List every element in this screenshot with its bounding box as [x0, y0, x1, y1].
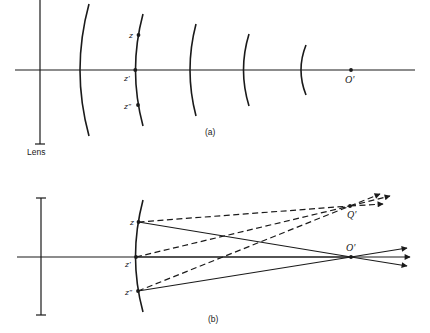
label-z-double-prime-b: z"	[124, 288, 133, 297]
label-z-double-prime-a: z"	[123, 102, 132, 111]
point-z-double-prime-b	[136, 289, 140, 293]
lens-label: Lens	[27, 147, 45, 157]
label-z-a: z	[128, 31, 133, 40]
caption-a: (a)	[205, 127, 216, 137]
label-o-prime-b: O'	[346, 242, 356, 253]
point-z-b	[137, 220, 141, 224]
point-z-a	[137, 33, 141, 37]
dashed-ray-z-to-q	[139, 206, 351, 222]
point-q-prime	[348, 204, 352, 208]
point-o-prime-a	[349, 68, 353, 72]
ray-o-out-down	[351, 257, 407, 266]
optics-diagram: z z' z" O' Lens (a) z z' z" Q' O' (b)	[0, 0, 430, 333]
panel-a	[15, 0, 415, 144]
point-o-prime-b	[349, 255, 353, 259]
dashed-ray-q-out-1	[350, 194, 380, 206]
label-z-prime-a: z'	[123, 74, 130, 83]
label-q-prime: Q'	[347, 209, 357, 220]
point-z-double-prime-a	[136, 103, 140, 107]
ray-o-out-up	[351, 248, 407, 257]
label-z-b: z	[129, 218, 134, 227]
caption-b: (b)	[208, 314, 219, 324]
point-z-prime-a	[133, 68, 137, 72]
dashed-ray-z-double-prime-to-q	[138, 206, 350, 291]
label-z-prime-b: z'	[124, 260, 131, 269]
ray-z-to-o	[139, 222, 352, 257]
ray-z-double-prime-to-o	[138, 257, 351, 291]
label-o-prime-a: O'	[345, 74, 355, 85]
point-z-prime-b	[134, 255, 138, 259]
labels: z z' z" O' Lens (a) z z' z" Q' O' (b)	[27, 31, 357, 324]
